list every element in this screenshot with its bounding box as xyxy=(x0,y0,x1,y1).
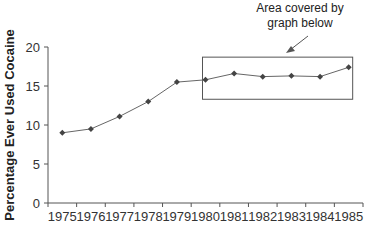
y-axis-ticks: 05101520 xyxy=(26,40,48,211)
y-axis-label: Percentage Ever Used Cocaine xyxy=(2,29,17,220)
highlight-rectangle xyxy=(203,57,353,99)
x-tick-label: 1975 xyxy=(48,209,77,224)
annotation-arrow xyxy=(290,36,308,50)
axes xyxy=(48,47,363,203)
data-point-marker xyxy=(288,73,294,79)
data-point-marker xyxy=(59,130,65,136)
data-point-marker xyxy=(88,126,94,132)
annotation: Area covered bygraph below xyxy=(256,1,343,53)
x-tick-label: 1977 xyxy=(105,209,134,224)
data-point-marker xyxy=(317,74,323,80)
y-tick-label: 10 xyxy=(26,118,40,133)
x-tick-label: 1982 xyxy=(248,209,277,224)
x-tick-label: 1980 xyxy=(191,209,220,224)
data-series xyxy=(59,64,351,136)
annotation-text: graph below xyxy=(267,16,333,30)
highlight-box xyxy=(203,57,353,99)
y-tick-label: 20 xyxy=(26,40,40,55)
y-tick-label: 0 xyxy=(33,196,40,211)
y-tick-label: 15 xyxy=(26,79,40,94)
x-tick-label: 1985 xyxy=(334,209,363,224)
x-axis-ticks: 1975197619771978197919801981198219831984… xyxy=(48,203,363,224)
x-tick-label: 1984 xyxy=(306,209,335,224)
data-point-marker xyxy=(203,77,209,83)
x-tick-label: 1983 xyxy=(277,209,306,224)
data-point-marker xyxy=(145,99,151,105)
line-chart: 05101520 1975197619771978197919801981198… xyxy=(0,0,372,230)
x-tick-label: 1981 xyxy=(220,209,249,224)
x-tick-label: 1978 xyxy=(134,209,163,224)
annotation-text: Area covered by xyxy=(256,1,343,15)
data-point-marker xyxy=(231,71,237,77)
y-tick-label: 5 xyxy=(33,157,40,172)
x-tick-label: 1979 xyxy=(162,209,191,224)
data-point-marker xyxy=(117,113,123,119)
data-point-marker xyxy=(346,64,352,70)
data-point-marker xyxy=(260,74,266,80)
x-tick-label: 1976 xyxy=(76,209,105,224)
data-point-marker xyxy=(174,79,180,85)
